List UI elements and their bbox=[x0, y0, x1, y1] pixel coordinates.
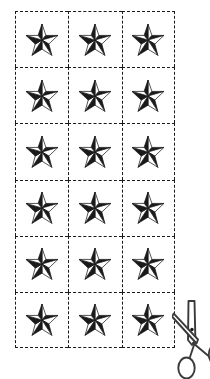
nautical-star-icon bbox=[25, 191, 59, 225]
nautical-star-icon bbox=[78, 247, 112, 281]
nautical-star-icon bbox=[131, 23, 165, 57]
grid-cell[interactable] bbox=[15, 292, 68, 348]
grid-cell[interactable] bbox=[122, 11, 175, 67]
grid-cell[interactable] bbox=[15, 123, 68, 179]
grid-cell[interactable] bbox=[68, 180, 121, 236]
grid-cell[interactable] bbox=[15, 180, 68, 236]
grid-cell[interactable] bbox=[122, 292, 175, 348]
nautical-star-icon bbox=[78, 191, 112, 225]
nautical-star-icon bbox=[78, 303, 112, 337]
grid-cell[interactable] bbox=[15, 67, 68, 123]
nautical-star-icon bbox=[131, 79, 165, 113]
grid-cell[interactable] bbox=[122, 67, 175, 123]
grid-cell[interactable] bbox=[68, 292, 121, 348]
nautical-star-icon bbox=[131, 191, 165, 225]
nautical-star-icon bbox=[131, 247, 165, 281]
cut-out-grid bbox=[15, 11, 175, 348]
grid-cell[interactable] bbox=[68, 236, 121, 292]
nautical-star-icon bbox=[25, 79, 59, 113]
nautical-star-icon bbox=[78, 23, 112, 57]
grid-cell[interactable] bbox=[122, 180, 175, 236]
nautical-star-icon bbox=[25, 23, 59, 57]
grid-cell[interactable] bbox=[15, 236, 68, 292]
grid-cell[interactable] bbox=[122, 236, 175, 292]
grid-cell[interactable] bbox=[15, 11, 68, 67]
nautical-star-icon bbox=[25, 247, 59, 281]
grid-cell[interactable] bbox=[68, 11, 121, 67]
worksheet bbox=[0, 0, 210, 379]
nautical-star-icon bbox=[131, 303, 165, 337]
grid-cell[interactable] bbox=[68, 67, 121, 123]
grid-cell[interactable] bbox=[122, 123, 175, 179]
scissors-icon bbox=[172, 296, 210, 379]
nautical-star-icon bbox=[25, 303, 59, 337]
nautical-star-icon bbox=[25, 135, 59, 169]
nautical-star-icon bbox=[78, 135, 112, 169]
nautical-star-icon bbox=[78, 79, 112, 113]
grid-cell[interactable] bbox=[68, 123, 121, 179]
nautical-star-icon bbox=[131, 135, 165, 169]
